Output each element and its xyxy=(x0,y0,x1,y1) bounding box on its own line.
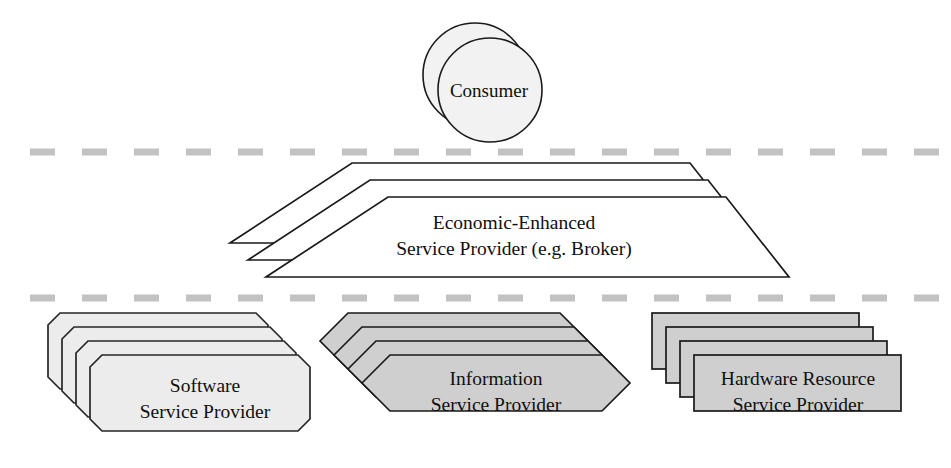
broker-label-line2: Service Provider (e.g. Broker) xyxy=(396,238,632,260)
hardware-label-line1: Hardware Resource xyxy=(721,368,875,389)
consumer-label: Consumer xyxy=(450,80,529,101)
software-label-line2: Service Provider xyxy=(140,401,271,422)
software-service-provider-group[interactable]: Software Service Provider xyxy=(48,313,310,431)
information-label-line1: Information xyxy=(449,368,542,389)
service-provider-layer-diagram: Consumer Economic-Enhanced Service Provi… xyxy=(0,0,951,468)
information-label-line2: Service Provider xyxy=(431,394,562,415)
hardware-resource-service-provider-group[interactable]: Hardware Resource Service Provider xyxy=(652,313,901,415)
broker-group[interactable]: Economic-Enhanced Service Provider (e.g.… xyxy=(230,163,789,277)
consumer-group[interactable]: Consumer xyxy=(423,23,542,142)
diagram-canvas: Consumer Economic-Enhanced Service Provi… xyxy=(0,0,951,468)
software-label-line1: Software xyxy=(170,375,240,396)
hardware-label-line2: Service Provider xyxy=(733,394,864,415)
information-service-provider-group[interactable]: Information Service Provider xyxy=(320,313,630,415)
broker-label-line1: Economic-Enhanced xyxy=(433,212,596,233)
